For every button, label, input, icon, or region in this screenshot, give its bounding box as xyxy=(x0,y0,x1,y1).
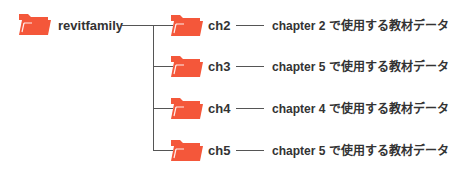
child-folder-label: ch5 xyxy=(208,143,230,159)
child-folder-label: ch2 xyxy=(208,18,230,34)
child-folder-description: chapter 4 で使用する教材データ xyxy=(272,101,449,117)
child-folder-description: chapter 5 で使用する教材データ xyxy=(272,59,449,75)
child-folder-label: ch3 xyxy=(208,59,230,75)
child-folder-label: ch4 xyxy=(208,101,230,117)
tree-trunk-line xyxy=(153,25,154,151)
child-folder-description: chapter 5 で使用する教材データ xyxy=(272,143,449,159)
child-folder-description: chapter 2 で使用する教材データ xyxy=(272,18,449,34)
folder-icon xyxy=(170,138,204,162)
folder-icon xyxy=(170,96,204,120)
folder-icon xyxy=(170,54,204,78)
root-connector xyxy=(122,25,153,26)
description-connector xyxy=(236,150,264,151)
description-connector xyxy=(236,66,264,67)
root-folder-label: revitfamily xyxy=(58,18,123,34)
root-folder-icon xyxy=(18,12,52,36)
folder-icon xyxy=(170,13,204,37)
description-connector xyxy=(236,25,264,26)
description-connector xyxy=(236,108,264,109)
